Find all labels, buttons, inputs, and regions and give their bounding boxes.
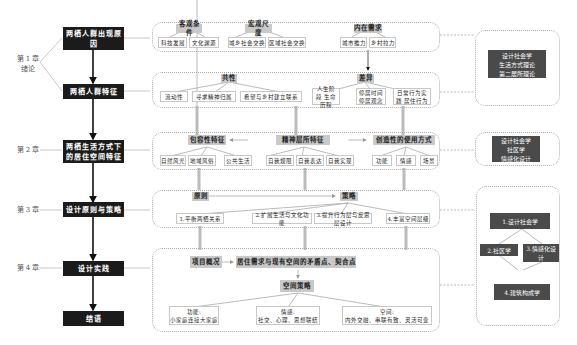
- theory-item: 设计社会学: [501, 136, 531, 145]
- theory-node-architecture: 4.建筑构成学: [494, 284, 550, 300]
- tag-commonality: 共性: [221, 74, 237, 83]
- theory-box-1: 设计社会学 生活方式理论 第二居所理论: [488, 50, 546, 78]
- chapter-1-label: 第 1 章 绪论: [14, 54, 42, 74]
- leaf-space-strategy: 空间: 内外交融、串联有致、灵活可变: [342, 306, 432, 325]
- leaf-emotion: 情感: [396, 155, 416, 166]
- theory-item: 生活方式理论: [499, 60, 535, 69]
- theory-item: 社区学: [507, 145, 525, 154]
- leaf-self-realization: 自我实现: [326, 155, 354, 166]
- tag-creative-use: 创造性的使用方式: [373, 135, 435, 145]
- leaf-text: 社交、心理、思想联结: [258, 316, 318, 324]
- leaf-space-levels: 4.丰富空间层级: [386, 213, 430, 224]
- theory-item: 设计社会学: [502, 51, 532, 60]
- leaf-text: 小家庭连接大家庭: [170, 316, 218, 324]
- chapter-number: 第 1 章: [14, 54, 42, 64]
- leaf-behavior-design: 3.提升行为层与反思层设计: [314, 213, 372, 224]
- leaf-tech: 科技发展: [158, 37, 187, 48]
- chapter-2-label: 第 2 章: [14, 145, 42, 155]
- leaf-life-stage: 人生阶段 生命历程: [312, 88, 340, 105]
- leaf-function: 功能: [372, 155, 392, 166]
- tag-spiritual-place: 精神层所特征: [276, 135, 330, 145]
- main-node-causes: 两栖人群出现原因: [63, 27, 124, 50]
- tag-strategy: 策略: [340, 192, 358, 201]
- leaf-rural-connection: 希望与乡村建立联系: [240, 91, 302, 102]
- tag-project-overview: 项目概况: [190, 256, 222, 268]
- main-node-conclusion: 结语: [63, 311, 124, 326]
- leaf-text: 内外交融、串联有致、灵活可变: [345, 316, 429, 324]
- leaf-daily-behavior: 日常行为实践 居住行为: [393, 88, 431, 105]
- leaf-public-life: 公共生活: [224, 155, 252, 166]
- tag-space-strategy: 空间策略: [280, 280, 314, 292]
- leaf-stay-time: 停居时间 停居观念: [356, 88, 386, 105]
- leaf-village-pull: 乡村拉力: [369, 37, 396, 48]
- leaf-title: 情感:: [281, 308, 295, 316]
- tag-difference: 差异: [357, 74, 374, 83]
- tag-inner-needs: 内在需求: [354, 24, 382, 33]
- theory-box-2: 设计社会学 社区学 情感化设计: [492, 136, 540, 162]
- leaf-regional: 区域社会交换: [268, 37, 306, 48]
- tag-objective-conditions: 客观条件: [176, 24, 202, 33]
- chapter-4-label: 第 4 章: [14, 263, 42, 273]
- theory-node-emotional-design: 3.情感化设计: [523, 244, 559, 262]
- theory-item: 情感化设计: [501, 154, 531, 163]
- leaf-self-regulation: 自我规限: [266, 155, 294, 166]
- leaf-function-strategy: 功能: 小家庭连接大家庭: [169, 306, 219, 325]
- tag-macro-scale: 宏观尺度: [245, 24, 272, 33]
- main-node-features: 两栖人群特征: [63, 84, 124, 99]
- leaf-mobility: 流动性: [160, 91, 188, 102]
- chapter-3-label: 第 3 章: [14, 205, 42, 215]
- leaf-emotion-strategy: 情感: 社交、心理、思想联结: [256, 306, 320, 325]
- theory-item: 第二居所理论: [499, 69, 535, 78]
- main-node-practice: 设计实践: [63, 261, 124, 276]
- leaf-natural-scenery: 自然风光: [160, 155, 186, 166]
- leaf-title: 空间:: [380, 308, 394, 316]
- theory-node-community: 2.社区学: [480, 244, 518, 256]
- leaf-culture: 文化渊源: [189, 37, 219, 48]
- main-node-space-features: 两栖生活方式下的居住空间特征: [63, 140, 124, 163]
- leaf-local-customs: 地域风俗: [188, 155, 216, 166]
- chapter-subtitle: 绪论: [14, 64, 42, 74]
- leaf-scene: 场景: [420, 155, 438, 166]
- main-node-principles: 设计原则与策略: [63, 202, 124, 217]
- tag-principle: 原则: [192, 192, 209, 201]
- leaf-balance: 1.平衡两栖关系: [176, 213, 224, 224]
- leaf-city-push: 城市推力: [340, 37, 367, 48]
- theory-node-design-sociology: 1.设计社会学: [490, 213, 550, 229]
- leaf-title: 功能:: [187, 308, 201, 316]
- leaf-urban-rural: 城乡社会交换: [228, 37, 266, 48]
- leaf-self-expression: 自我表达: [296, 155, 324, 166]
- tag-inclusive: 包容性特征: [188, 135, 226, 145]
- leaf-expand-functions: 2.扩展生活与文化功能: [252, 213, 312, 224]
- tag-contradiction: 居住需求与现有空间的矛盾点、契合点: [236, 256, 356, 268]
- leaf-spiritual-belonging: 寻求精神归属: [192, 91, 236, 102]
